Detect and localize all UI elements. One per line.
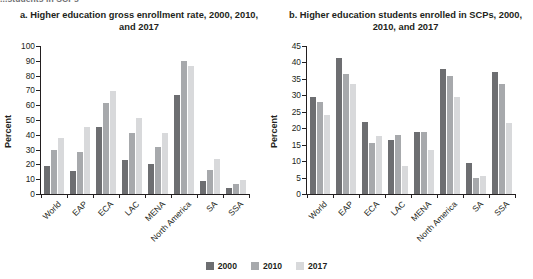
bar-group[interactable] <box>119 46 145 194</box>
y-tick-label: 10 <box>26 174 35 184</box>
bar[interactable] <box>440 69 446 194</box>
legend-label: 2000 <box>218 261 237 271</box>
bar-group[interactable] <box>411 46 437 194</box>
y-tick-mark <box>302 79 306 80</box>
legend-swatch-icon <box>251 262 259 270</box>
y-tick-label: 45 <box>292 41 301 51</box>
panel-a-x-labels: WorldEAPECALACMENANorth AmericaSASSA <box>41 199 249 245</box>
y-tick-mark <box>36 90 40 91</box>
bar[interactable] <box>492 72 498 194</box>
bar[interactable] <box>421 132 427 194</box>
bar[interactable] <box>317 102 323 194</box>
bar[interactable] <box>84 127 90 194</box>
y-tick-label: 15 <box>292 140 301 150</box>
y-tick-label: 0 <box>30 189 35 199</box>
bar[interactable] <box>174 95 180 194</box>
bar[interactable] <box>362 122 368 194</box>
bar[interactable] <box>324 115 330 194</box>
bar[interactable] <box>226 188 232 194</box>
bar-group[interactable] <box>359 46 385 194</box>
y-tick-label: 100 <box>21 41 35 51</box>
legend-swatch-icon <box>296 262 304 270</box>
bar[interactable] <box>388 140 394 194</box>
bar[interactable] <box>96 127 102 194</box>
bar[interactable] <box>155 147 161 194</box>
bar[interactable] <box>499 84 505 194</box>
bar[interactable] <box>148 164 154 194</box>
y-tick-mark <box>36 105 40 106</box>
y-tick-label: 90 <box>26 56 35 66</box>
bar[interactable] <box>454 97 460 194</box>
figure-root: ...students in SCPs a. Higher education … <box>0 0 533 279</box>
x-tick-mark <box>197 194 198 198</box>
bar-group[interactable] <box>145 46 171 194</box>
y-tick-label: 0 <box>296 189 301 199</box>
bar[interactable] <box>395 135 401 194</box>
x-tick-mark <box>463 194 464 198</box>
bar[interactable] <box>188 66 194 194</box>
y-tick-label: 5 <box>296 173 301 183</box>
bar[interactable] <box>310 97 316 194</box>
bar-group[interactable] <box>93 46 119 194</box>
x-tick-mark <box>119 194 120 198</box>
bar[interactable] <box>414 132 420 194</box>
bar[interactable] <box>103 103 109 194</box>
bar[interactable] <box>58 138 64 194</box>
bar-group[interactable] <box>67 46 93 194</box>
x-tick-mark <box>41 194 42 198</box>
bar[interactable] <box>428 150 434 194</box>
bar[interactable] <box>369 143 375 194</box>
bar-group[interactable] <box>385 46 411 194</box>
bar[interactable] <box>77 152 83 194</box>
bar[interactable] <box>447 76 453 194</box>
bar-group[interactable] <box>41 46 67 194</box>
bar[interactable] <box>402 166 408 194</box>
x-tick-mark <box>385 194 386 198</box>
y-tick-label: 30 <box>26 145 35 155</box>
bar-group[interactable] <box>171 46 197 194</box>
bar[interactable] <box>376 136 382 194</box>
bar[interactable] <box>343 74 349 194</box>
chart-panel-a: a. Higher education gross enrollment rat… <box>0 8 266 246</box>
bar[interactable] <box>506 123 512 194</box>
x-tick-mark <box>515 194 516 198</box>
legend-item[interactable]: 2017 <box>296 261 327 271</box>
y-tick-label: 25 <box>292 107 301 117</box>
x-tick-mark <box>223 194 224 198</box>
y-tick-label: 40 <box>26 130 35 140</box>
panel-a-plot: Percent 0102030405060708090100 WorldEAPE… <box>0 46 266 246</box>
y-tick-mark <box>36 46 40 47</box>
y-tick-label: 70 <box>26 85 35 95</box>
y-tick-mark <box>36 194 40 195</box>
bar[interactable] <box>44 166 50 194</box>
y-tick-label: 30 <box>292 90 301 100</box>
panel-b-y-ticks: 051015202530354045 <box>280 46 304 194</box>
y-tick-label: 40 <box>292 57 301 67</box>
bar[interactable] <box>181 61 187 194</box>
panel-a-title: a. Higher education gross enrollment rat… <box>18 10 260 33</box>
bar-group[interactable] <box>437 46 463 194</box>
legend-item[interactable]: 2000 <box>206 261 237 271</box>
bar[interactable] <box>336 58 342 194</box>
y-tick-label: 35 <box>292 74 301 84</box>
y-tick-label: 50 <box>26 115 35 125</box>
panels-container: a. Higher education gross enrollment rat… <box>0 8 533 246</box>
legend-label: 2017 <box>308 261 327 271</box>
bar-group[interactable] <box>307 46 333 194</box>
bar[interactable] <box>110 91 116 194</box>
y-tick-mark <box>36 135 40 136</box>
x-tick-mark <box>171 194 172 198</box>
x-tick-mark <box>307 194 308 198</box>
bar[interactable] <box>350 84 356 194</box>
y-tick-mark <box>302 178 306 179</box>
legend-item[interactable]: 2010 <box>251 261 282 271</box>
bar[interactable] <box>129 133 135 194</box>
bar[interactable] <box>136 118 142 194</box>
bar[interactable] <box>51 150 57 194</box>
bar[interactable] <box>162 133 168 194</box>
bar-group[interactable] <box>333 46 359 194</box>
bar[interactable] <box>233 184 239 194</box>
panel-a-y-ticks: 0102030405060708090100 <box>14 46 38 194</box>
legend-label: 2010 <box>263 261 282 271</box>
x-tick-mark <box>437 194 438 198</box>
